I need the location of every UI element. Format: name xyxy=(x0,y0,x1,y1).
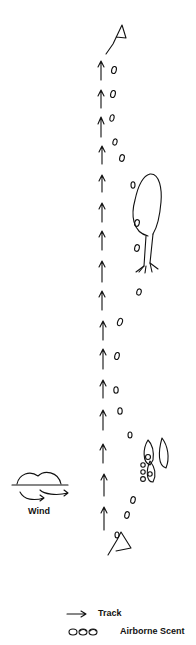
arrow-up-icon xyxy=(100,349,106,369)
arrow-up-icon xyxy=(98,117,104,137)
arrow-up-icon xyxy=(100,410,106,430)
legend-track-label: Track xyxy=(98,608,122,618)
end-flag-icon xyxy=(106,25,126,54)
legend-scent-label: Airborne Scent xyxy=(120,626,185,636)
wind-cloud-icon xyxy=(12,472,68,501)
legend-track-arrow-icon xyxy=(67,611,86,617)
bush-cluster-icon xyxy=(141,438,168,482)
arrow-up-icon xyxy=(99,261,105,282)
arrow-up-icon xyxy=(100,444,106,463)
arrow-up-icon xyxy=(101,474,107,496)
arrow-up-icon xyxy=(98,61,104,80)
arrow-up-icon xyxy=(101,507,107,530)
arrow-up-icon xyxy=(99,175,105,192)
legend-scent-icon xyxy=(69,629,97,635)
tree-icon xyxy=(133,174,161,273)
scent-puffs xyxy=(109,66,142,538)
arrow-up-icon xyxy=(100,380,106,398)
arrow-up-icon xyxy=(98,90,104,108)
diagram-canvas xyxy=(0,0,196,645)
arrow-up-icon xyxy=(99,203,105,222)
track-arrows xyxy=(98,61,107,530)
arrow-up-icon xyxy=(99,231,105,250)
wind-label: Wind xyxy=(28,506,50,516)
arrow-up-icon xyxy=(99,146,105,164)
arrow-up-icon xyxy=(100,321,106,340)
arrow-up-icon xyxy=(99,291,105,310)
